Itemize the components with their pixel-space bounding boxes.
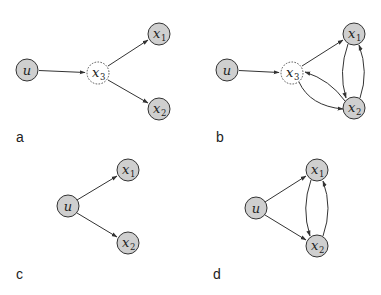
node-u: u [16, 59, 38, 81]
node-subscript: 3 [294, 72, 299, 82]
edge-u-x2 [77, 213, 117, 237]
node-label: x [348, 26, 356, 41]
panel-label: c [16, 266, 23, 282]
edge-u-x3 [239, 71, 279, 73]
node-subscript: 2 [161, 108, 166, 118]
node-label: x [122, 235, 130, 250]
node-u: u [245, 197, 267, 219]
node-label: u [252, 201, 260, 216]
edge-x1-x2 [342, 44, 348, 98]
node-x1: x 1 [306, 159, 328, 181]
node-x2: x 2 [306, 235, 328, 257]
node-label: x [311, 238, 319, 253]
node-x1: x 1 [343, 23, 365, 45]
node-label: x [348, 100, 356, 115]
node-subscript: 1 [161, 33, 166, 43]
node-x3-latent: x 3 [281, 62, 303, 84]
edge-x2-x3 [305, 72, 345, 101]
panel-label: d [213, 266, 221, 282]
node-label: x [311, 162, 319, 177]
edge-x3-x2 [108, 80, 148, 103]
node-label: x [153, 26, 161, 41]
panel-label: b [216, 129, 224, 145]
node-label: x [153, 101, 161, 116]
panel-label: a [16, 129, 24, 145]
node-label: x [122, 162, 130, 177]
edge-u-x2 [265, 215, 306, 240]
node-x3-latent: x 3 [87, 62, 109, 84]
node-u: u [57, 195, 79, 217]
edge-x3-x2 [299, 82, 343, 109]
node-u: u [216, 59, 238, 81]
node-subscript: 2 [356, 107, 361, 117]
node-subscript: 1 [319, 169, 324, 179]
node-subscript: 1 [356, 33, 361, 43]
node-label: x [286, 65, 294, 80]
node-label: x [92, 65, 100, 80]
node-subscript: 2 [319, 245, 324, 255]
edge-x2-x1 [359, 45, 364, 98]
causal-graph-figure: u x 3 x 1 x 2 a u [0, 0, 381, 295]
edge-x3-x1 [302, 40, 343, 66]
node-label: u [223, 63, 231, 78]
node-x2: x 2 [117, 232, 139, 254]
node-x1: x 1 [117, 159, 139, 181]
node-label: u [64, 199, 72, 214]
node-subscript: 2 [130, 242, 135, 252]
panel-b: u x 3 x 1 x 2 b [216, 23, 365, 145]
edge-u-x3 [39, 71, 85, 73]
edge-x3-x1 [108, 40, 148, 66]
panel-d: u x 1 x 2 d [213, 159, 328, 282]
edge-u-x1 [265, 176, 306, 202]
node-x2: x 2 [343, 97, 365, 119]
panel-c: u x 1 x 2 c [16, 159, 139, 282]
edge-x2-x1 [323, 181, 328, 236]
edge-x1-x2 [306, 180, 311, 236]
node-subscript: 3 [100, 72, 105, 82]
node-x1: x 1 [148, 23, 170, 45]
node-x2: x 2 [148, 98, 170, 120]
edge-u-x1 [77, 176, 117, 200]
node-subscript: 1 [130, 169, 135, 179]
panel-a: u x 3 x 1 x 2 a [16, 23, 170, 145]
node-label: u [23, 63, 31, 78]
